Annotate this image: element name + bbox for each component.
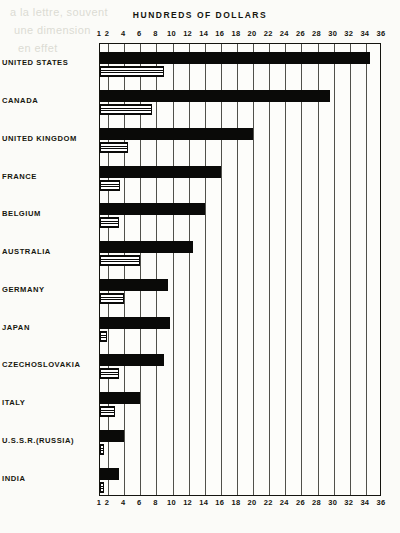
bar-row	[100, 271, 380, 309]
x-tick-label: 2	[105, 498, 109, 507]
bar-solid	[100, 430, 124, 442]
bar-hatched	[100, 104, 152, 115]
chart-title: HUNDREDS OF DOLLARS	[0, 10, 400, 20]
x-axis-ticks-bottom: 124681012141618202224262830323436	[0, 498, 400, 510]
category-label: AUSTRALIA	[2, 247, 91, 256]
x-tick-label: 20	[248, 29, 257, 38]
x-tick-label: 36	[377, 29, 386, 38]
x-tick-label: 26	[296, 498, 305, 507]
bar-hatched	[100, 217, 119, 228]
x-tick-label: 26	[296, 29, 305, 38]
x-tick-label: 18	[231, 29, 240, 38]
x-tick-label: 6	[137, 498, 141, 507]
bar-hatched	[100, 255, 140, 266]
bar-row	[100, 157, 380, 195]
x-tick-label: 36	[377, 498, 386, 507]
x-tick-label: 30	[328, 498, 337, 507]
x-tick-label: 6	[137, 29, 141, 38]
x-tick-label: 24	[280, 498, 289, 507]
bar-solid	[100, 128, 253, 140]
x-tick-label: 8	[153, 498, 157, 507]
bar-solid	[100, 392, 140, 404]
x-tick-label: 8	[153, 29, 157, 38]
bar-row	[100, 346, 380, 384]
x-tick-label: 32	[344, 498, 353, 507]
category-label: JAPAN	[2, 323, 91, 332]
bar-solid	[100, 279, 168, 291]
category-label: ITALY	[2, 398, 91, 407]
bar-chart: HUNDREDS OF DOLLARS 12468101214161820222…	[0, 0, 400, 533]
bar-hatched	[100, 142, 128, 153]
bar-rows	[100, 44, 380, 495]
x-tick-label: 22	[264, 498, 273, 507]
bar-hatched	[100, 368, 119, 379]
bar-solid	[100, 52, 370, 64]
category-label: CANADA	[2, 96, 91, 105]
x-tick-label: 4	[121, 498, 125, 507]
category-labels: UNITED STATESCANADAUNITED KINGDOMFRANCEB…	[0, 43, 99, 496]
bar-hatched	[100, 331, 107, 342]
bar-hatched	[100, 66, 164, 77]
category-label: BELGIUM	[2, 209, 91, 218]
bar-hatched	[100, 406, 115, 417]
x-tick-label: 1	[97, 29, 101, 38]
x-tick-label: 16	[215, 29, 224, 38]
bar-row	[100, 195, 380, 233]
bar-solid	[100, 90, 330, 102]
x-tick-label: 18	[231, 498, 240, 507]
bar-hatched	[100, 444, 104, 455]
bar-row	[100, 233, 380, 271]
x-tick-label: 16	[215, 498, 224, 507]
plot-area	[99, 43, 381, 496]
x-axis-ticks-top: 124681012141618202224262830323436	[0, 29, 400, 41]
x-tick-label: 30	[328, 29, 337, 38]
x-tick-label: 14	[199, 29, 208, 38]
bar-solid	[100, 468, 119, 480]
bar-hatched	[100, 293, 124, 304]
x-tick-label: 24	[280, 29, 289, 38]
bar-row	[100, 308, 380, 346]
x-tick-label: 1	[97, 498, 101, 507]
x-tick-label: 4	[121, 29, 125, 38]
bar-row	[100, 459, 380, 497]
category-label: CZECHOSLOVAKIA	[2, 360, 91, 369]
x-tick-label: 28	[312, 29, 321, 38]
category-label: UNITED STATES	[2, 58, 91, 67]
bar-solid	[100, 166, 221, 178]
x-tick-label: 14	[199, 498, 208, 507]
x-tick-label: 22	[264, 29, 273, 38]
x-tick-label: 34	[360, 498, 369, 507]
bar-row	[100, 82, 380, 120]
category-label: INDIA	[2, 474, 91, 483]
bar-hatched	[100, 482, 104, 493]
bar-solid	[100, 241, 193, 253]
x-tick-label: 10	[167, 29, 176, 38]
bar-solid	[100, 203, 205, 215]
x-tick-label: 20	[248, 498, 257, 507]
category-label: GERMANY	[2, 285, 91, 294]
bar-row	[100, 422, 380, 460]
bar-row	[100, 44, 380, 82]
category-label: UNITED KINGDOM	[2, 134, 91, 143]
x-tick-label: 32	[344, 29, 353, 38]
x-tick-label: 2	[105, 29, 109, 38]
bar-solid	[100, 317, 170, 329]
x-tick-label: 34	[360, 29, 369, 38]
category-label: FRANCE	[2, 172, 91, 181]
bar-row	[100, 120, 380, 158]
x-tick-label: 28	[312, 498, 321, 507]
bar-hatched	[100, 180, 120, 191]
x-tick-label: 12	[183, 498, 192, 507]
bar-solid	[100, 354, 164, 366]
x-tick-label: 12	[183, 29, 192, 38]
x-tick-label: 10	[167, 498, 176, 507]
bar-row	[100, 384, 380, 422]
category-label: U.S.S.R.(RUSSIA)	[2, 436, 91, 445]
